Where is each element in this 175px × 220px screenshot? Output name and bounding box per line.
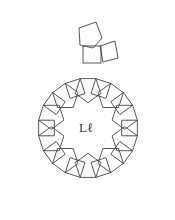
pentagon-tile — [75, 79, 100, 103]
square-tile — [91, 158, 111, 178]
center-label: Lℓ — [79, 120, 93, 136]
square-tile — [43, 93, 65, 115]
square-tile — [65, 158, 85, 178]
square-tile — [43, 142, 65, 164]
pentagon-tile — [112, 105, 137, 129]
square-tile — [65, 79, 85, 99]
pentagon-tile — [39, 127, 64, 151]
square-tile — [83, 46, 101, 63]
square-tile — [100, 41, 118, 62]
square-tile — [111, 142, 133, 164]
pentagon-tile — [75, 153, 100, 177]
square-tile — [91, 79, 111, 99]
square-tile — [39, 120, 55, 136]
polygon-ring — [39, 22, 138, 177]
pentagon-tile — [79, 22, 102, 48]
tiling-diagram — [0, 0, 175, 220]
square-tile — [122, 120, 138, 136]
square-tile — [111, 93, 133, 115]
